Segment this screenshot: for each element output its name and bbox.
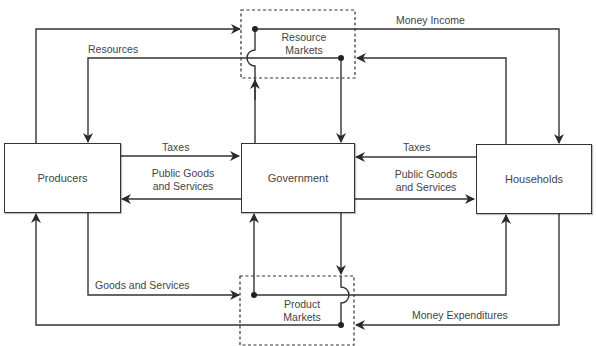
- public-goods-producers-label: Public Goods and Services: [138, 167, 228, 193]
- goods-and-services-label: Goods and Services: [95, 279, 190, 292]
- resource-markets-label: Resource Markets: [270, 31, 338, 57]
- money-income-label: Money Income: [396, 14, 465, 27]
- product-markets-label-line1: Product: [268, 298, 336, 311]
- government-label: Government: [268, 172, 329, 184]
- producers-box: Producers: [4, 143, 121, 213]
- taxes-producers-label: Taxes: [162, 141, 189, 154]
- junction-dot: [338, 322, 344, 328]
- resources-label: Resources: [88, 43, 138, 56]
- taxes-households-label: Taxes: [403, 141, 430, 154]
- junction-dot: [252, 26, 258, 32]
- product-markets-to-households-line: [254, 215, 506, 295]
- public-goods-households-label: Public Goods and Services: [381, 168, 471, 194]
- gov-to-resource-markets-line: [247, 29, 255, 143]
- households-to-resource-markets-line: [357, 58, 506, 144]
- resource-markets-label-line1: Resource: [270, 31, 338, 44]
- product-markets-label: Product Markets: [268, 298, 336, 324]
- public-goods-producers-line2: and Services: [138, 180, 228, 193]
- households-label: Households: [505, 173, 563, 185]
- junction-dot: [251, 292, 257, 298]
- product-markets-label-line2: Markets: [268, 311, 336, 324]
- public-goods-households-line1: Public Goods: [381, 168, 471, 181]
- resources-line: [88, 58, 341, 142]
- junction-dot: [338, 55, 344, 61]
- producers-label: Producers: [37, 172, 87, 184]
- households-box: Households: [476, 144, 592, 214]
- public-goods-producers-line1: Public Goods: [138, 167, 228, 180]
- resource-markets-label-line2: Markets: [270, 44, 338, 57]
- public-goods-households-line2: and Services: [381, 181, 471, 194]
- government-box: Government: [241, 143, 355, 213]
- money-expenditures-label: Money Expenditures: [412, 309, 508, 322]
